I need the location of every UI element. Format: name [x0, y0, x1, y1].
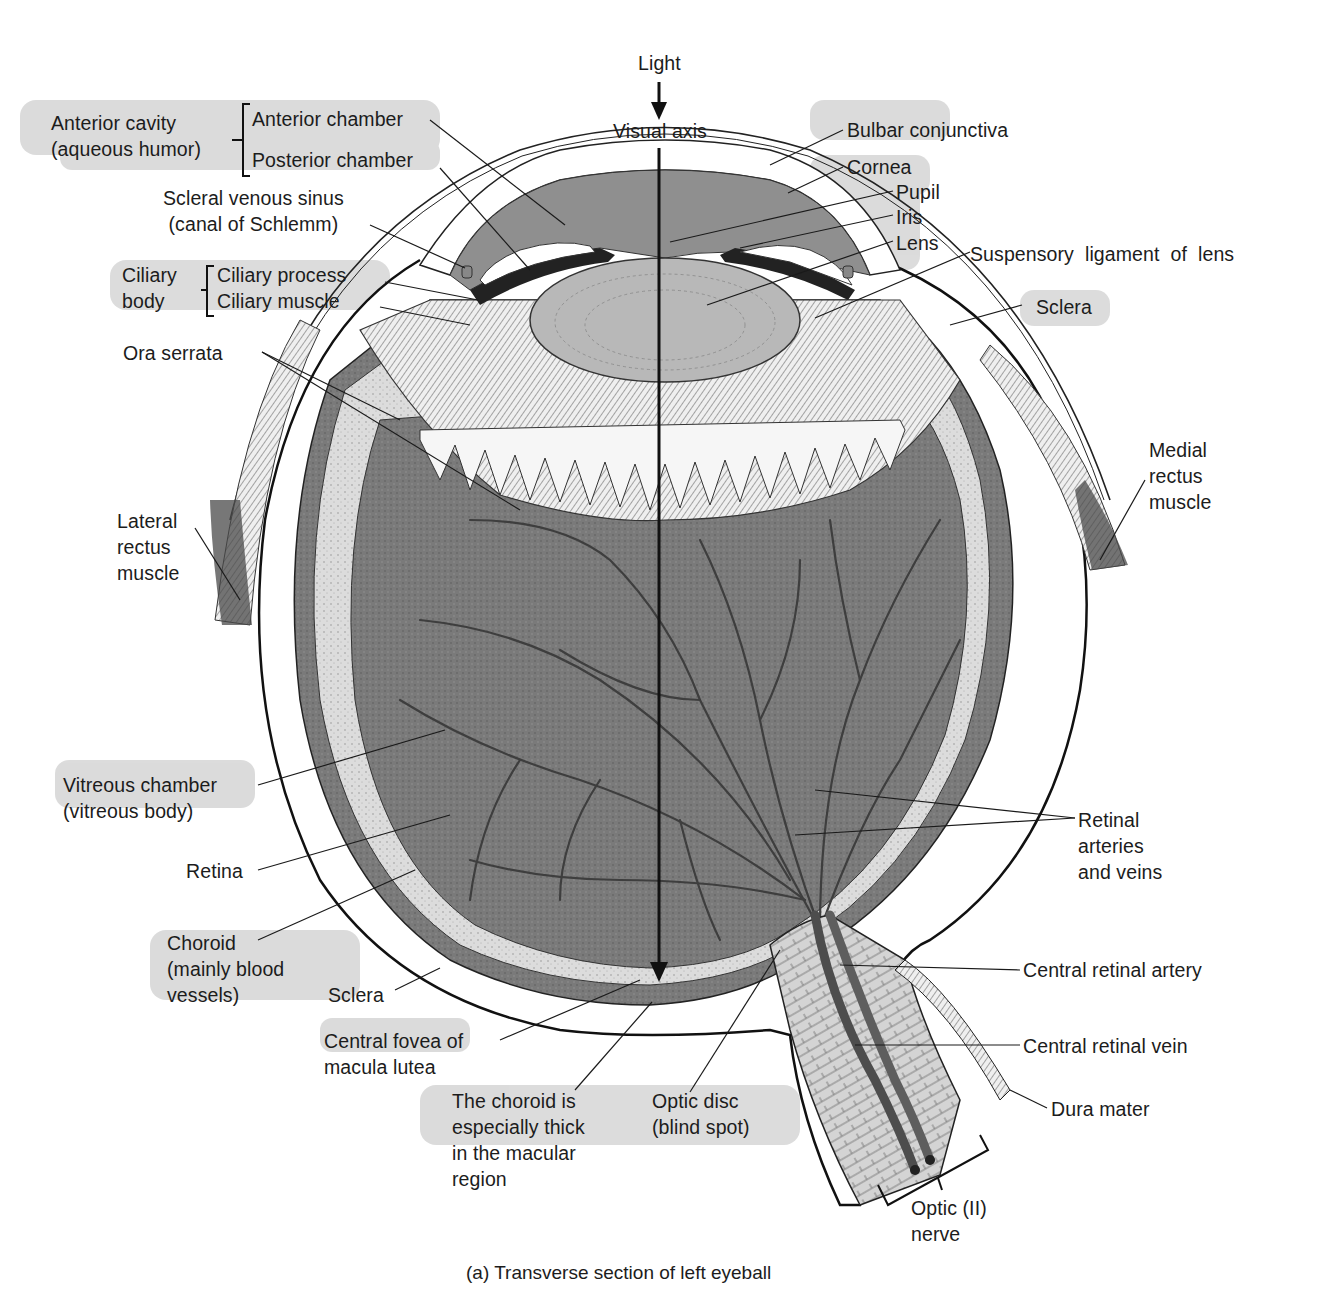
label-scleral-venous-sinus: Scleral venous sinus (canal of Schlemm)	[163, 185, 344, 237]
label-anterior-chamber: Anterior chamber	[252, 106, 403, 132]
label-central-retinal-vein: Central retinal vein	[1023, 1033, 1188, 1059]
label-choroid-thick: The choroid is especially thick in the m…	[452, 1088, 585, 1192]
label-retina: Retina	[186, 858, 243, 884]
label-iris: Iris	[896, 204, 922, 230]
label-dura-mater: Dura mater	[1051, 1096, 1150, 1122]
label-lens: Lens	[896, 230, 939, 256]
label-suspensory-ligament: Suspensory ligament of lens	[970, 241, 1234, 267]
label-ciliary-muscle: Ciliary muscle	[217, 288, 340, 314]
label-central-retinal-artery: Central retinal artery	[1023, 957, 1202, 983]
label-optic-disc: Optic disc (blind spot)	[652, 1088, 750, 1140]
label-pupil: Pupil	[896, 179, 940, 205]
label-retinal-vessels: Retinal arteries and veins	[1078, 807, 1162, 885]
label-ora-serrata: Ora serrata	[123, 340, 223, 366]
label-sclera-right: Sclera	[1036, 294, 1092, 320]
label-central-fovea: Central fovea of macula lutea	[324, 1028, 463, 1080]
label-light: Light	[638, 50, 681, 76]
label-vitreous-chamber: Vitreous chamber (vitreous body)	[63, 772, 217, 824]
label-lateral-rectus-muscle: Lateral rectus muscle	[117, 508, 179, 586]
label-posterior-chamber: Posterior chamber	[252, 147, 413, 173]
label-anterior-cavity: Anterior cavity (aqueous humor)	[51, 110, 201, 162]
label-choroid: Choroid (mainly blood vessels)	[167, 930, 284, 1008]
label-cornea: Cornea	[847, 154, 912, 180]
label-optic-nerve: Optic (II) nerve	[911, 1195, 987, 1247]
label-ciliary-body: Ciliary body	[122, 262, 177, 314]
label-medial-rectus-muscle: Medial rectus muscle	[1149, 437, 1211, 515]
figure-caption: (a) Transverse section of left eyeball	[466, 1262, 771, 1284]
lens	[530, 258, 800, 382]
label-sclera-left: Sclera	[328, 982, 384, 1008]
label-ciliary-process: Ciliary process	[217, 262, 346, 288]
label-visual-axis: Visual axis	[613, 118, 707, 144]
label-bulbar-conjunctiva: Bulbar conjunctiva	[847, 117, 1008, 143]
